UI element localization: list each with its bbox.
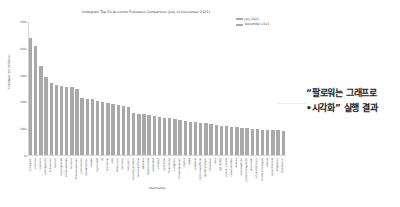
x-tick-label: mileycyrus (117, 158, 120, 172)
bar (173, 119, 176, 155)
x-tick-label: virat.kohli (163, 158, 166, 171)
annotation-connector-line (277, 103, 307, 104)
bar (127, 107, 130, 156)
x-tick-label: chrisbrownofficial (199, 158, 202, 181)
bar (266, 130, 269, 156)
x-tick-label: zendaya (158, 158, 161, 169)
bar (282, 131, 285, 156)
bar (142, 114, 145, 155)
bar (91, 99, 94, 155)
x-tick-label: katyperry (127, 158, 130, 170)
x-axis-tick-labels: instagramcristianoleomessiselenagomezkyl… (28, 157, 286, 185)
chart-panel: Instagram Top 50 Accounts Followers Comp… (0, 0, 292, 207)
bar (230, 127, 233, 156)
legend-label-july: July 2021 (245, 17, 259, 22)
bar (132, 113, 135, 156)
bar (189, 122, 192, 156)
annotation-line-1: “팔로워는 그래프로 (306, 86, 398, 101)
bar (261, 130, 264, 156)
plot-area: 0100200300400500 (28, 22, 286, 156)
bar (96, 101, 99, 156)
bar-series (28, 22, 286, 155)
x-tick-label: billieeilish (210, 158, 213, 171)
x-tick-label: leomessi (40, 158, 43, 169)
y-tick-label: 300 (20, 74, 26, 77)
bar (75, 89, 78, 156)
bar (240, 128, 243, 156)
x-tick-label: nickiminaj (107, 158, 110, 171)
x-tick-label: realmadrid (153, 158, 156, 172)
x-axis-line (28, 155, 286, 156)
bar (163, 118, 166, 156)
y-tick-label: 100 (20, 128, 26, 131)
bar (44, 77, 47, 156)
bar (137, 114, 140, 156)
x-tick-label: kingjames (277, 158, 280, 171)
bar (158, 117, 161, 156)
bar (256, 129, 259, 155)
bar (251, 129, 254, 156)
annotation-text: “팔로워는 그래프로 •시각화” 실행 결과 (306, 86, 398, 116)
x-tick-label: davidbeckham (205, 158, 208, 177)
x-tick-label: kendalljenner (86, 158, 89, 176)
bar (50, 83, 53, 155)
bar-slot (281, 22, 286, 155)
x-tick-label: selenagomez (45, 158, 48, 175)
bar (199, 123, 202, 156)
bar (225, 126, 228, 155)
bar (29, 38, 32, 155)
bar (86, 99, 89, 156)
x-tick-label: kyliejenner (50, 158, 53, 172)
x-tick-label: gal_gadot (220, 158, 223, 171)
x-tick-label: narendramodi (272, 158, 275, 176)
x-tick-label: natgeo (91, 158, 94, 167)
x-tick-label: camila_cabello (225, 158, 228, 177)
x-tick-label: dualipa (236, 158, 239, 168)
x-tick-label: shakira (184, 158, 187, 167)
x-tick-label: championsleague (261, 158, 264, 181)
bar (117, 105, 120, 155)
bar (70, 87, 73, 155)
x-tick-label: jamesrodriguez10 (246, 158, 249, 181)
bar (106, 103, 109, 155)
x-tick-label: cristiano (34, 158, 37, 169)
x-tick-label: marvel (266, 158, 269, 167)
x-axis-title: Username (28, 186, 286, 190)
annotation-line-2: •시각화” 실행 결과 (306, 101, 398, 116)
bar (65, 87, 68, 156)
x-tick-label: nike (112, 158, 115, 163)
x-tick-label: fcbarcelona (169, 158, 172, 173)
bar (235, 127, 238, 155)
x-tick-label: khloekardashian (76, 158, 79, 179)
x-tick-label: neymarjr (122, 158, 125, 170)
x-tick-label: vindiesel (194, 158, 197, 170)
bar (147, 115, 150, 155)
x-tick-label: priyankachopra (256, 158, 259, 178)
bar (153, 116, 156, 155)
x-tick-label: lalalalisa_m (282, 158, 285, 173)
screenshot-root: Instagram Top 50 Accounts Followers Comp… (0, 0, 400, 207)
bar (245, 128, 248, 155)
y-tick-label: 500 (20, 21, 26, 24)
x-tick-slot: lalalalisa_m (281, 157, 286, 185)
x-tick-label: justinbieber (81, 158, 84, 173)
x-tick-label: beyonce (71, 158, 74, 169)
x-tick-label: jlo (101, 158, 104, 161)
y-axis-title: Followers (in Millions) (7, 55, 11, 89)
x-tick-label: shawnmendes (230, 158, 233, 177)
bar (39, 66, 42, 155)
bar (271, 130, 274, 155)
bar (122, 106, 125, 155)
bar (80, 98, 83, 155)
bar (101, 102, 104, 155)
x-tick-label: arianagrande (60, 158, 63, 175)
bar (34, 46, 37, 155)
x-tick-label: 9gag (189, 158, 192, 165)
bar (276, 130, 279, 155)
legend-item-july: July 2021 (236, 17, 292, 22)
x-tick-label: champagnepapi (179, 158, 182, 179)
x-tick-label: therock (55, 158, 58, 168)
x-tick-label: taylorswift (96, 158, 99, 172)
x-tick-label: instagram (29, 158, 32, 171)
bar (194, 122, 197, 155)
